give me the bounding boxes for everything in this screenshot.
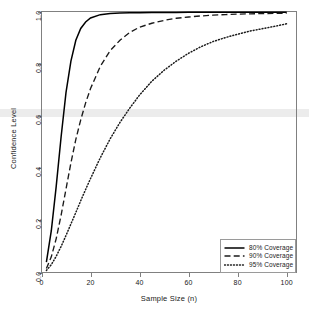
y-tick-label: 0.2 [35,219,42,229]
legend-label: 90% Coverage [249,252,293,260]
chart-figure: 020406080100 0.00.20.40.60.81.0 Sample S… [0,0,309,321]
y-tick-label: 0.8 [35,62,42,72]
series-line [46,12,286,262]
chart-legend: 80% Coverage90% Coverage95% Coverage [220,239,296,273]
legend-key-dashed-icon [224,252,245,260]
x-tick-label: 20 [76,279,106,286]
x-tick-mark [91,273,92,277]
x-tick-label: 80 [223,279,253,286]
series-line [46,24,286,271]
x-tick-mark [238,273,239,277]
legend-item: 90% Coverage [224,252,291,260]
x-tick-label: 40 [125,279,155,286]
x-tick-label: 60 [174,279,204,286]
y-axis-title: Confidence Level [9,108,18,169]
legend-key-solid-icon [224,244,245,252]
y-tick-label: 0.6 [35,115,42,125]
x-tick-mark [140,273,141,277]
series-line [46,13,286,268]
y-tick-label: 1.0 [35,10,42,20]
legend-label: 80% Coverage [249,244,293,252]
legend-item: 80% Coverage [224,244,291,252]
x-tick-label: 100 [272,279,302,286]
x-tick-mark [189,273,190,277]
y-tick-label: 0.4 [35,167,42,177]
legend-key-dotted-icon [224,261,245,269]
x-axis-title: Sample Size (n) [139,294,199,303]
x-tick-mark [287,273,288,277]
legend-label: 95% Coverage [249,261,293,269]
legend-item: 95% Coverage [224,261,291,269]
y-tick-label: 0.0 [35,271,42,281]
